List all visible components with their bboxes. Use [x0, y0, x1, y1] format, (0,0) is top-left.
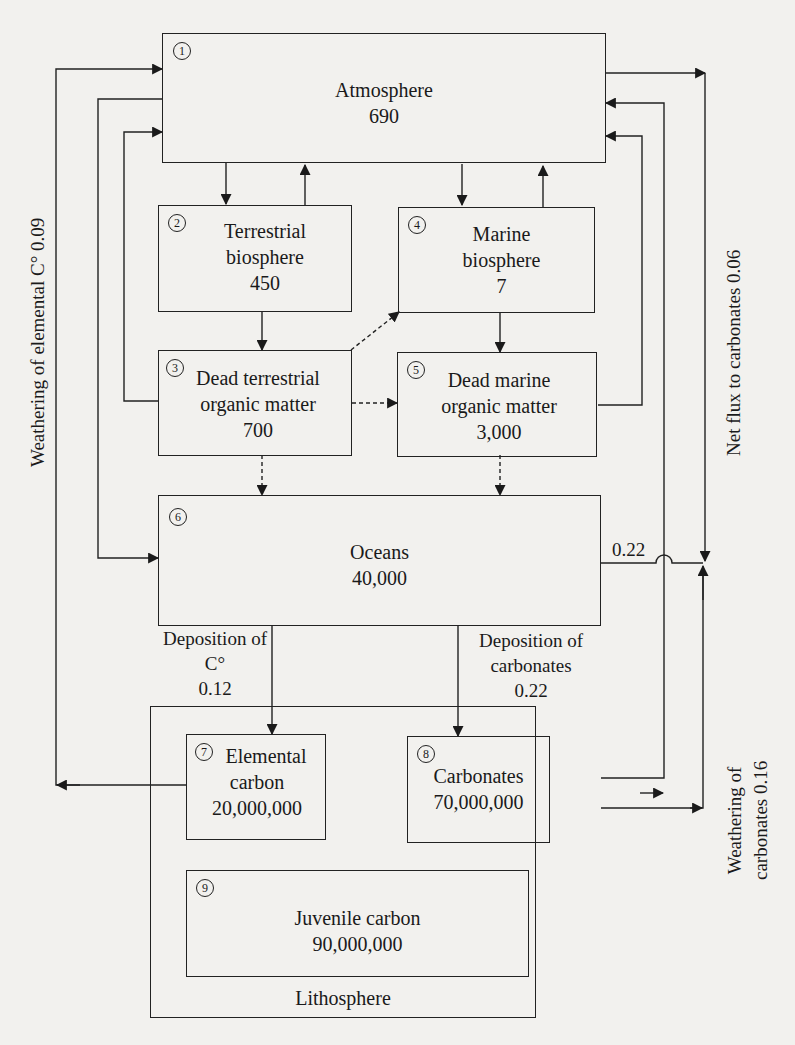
box-name-line2: organic matter [165, 391, 351, 417]
flux-value: 0.12 [160, 676, 270, 701]
box-number-badge: 6 [169, 508, 187, 526]
box-name-line2: biosphere [409, 247, 594, 273]
flux-text: Weathering of [722, 761, 748, 880]
box-dead-terrestrial-organic-matter: 3 Dead terrestrial organic matter 700 [158, 350, 352, 456]
box-label: Dead terrestrial organic matter 700 [165, 365, 351, 443]
box-juvenile-carbon: 9 Juvenile carbon 90,000,000 [186, 870, 529, 977]
flux-label-oceans-out: 0.22 [612, 537, 645, 562]
box-name: Oceans [159, 539, 600, 565]
box-name-line1: Terrestrial [179, 218, 351, 244]
box-atmosphere: 1 Atmosphere 690 [162, 33, 606, 163]
box-value: 40,000 [159, 565, 600, 591]
arrow-dead-terrestrial-to-atmosphere [124, 132, 162, 401]
flux-text: carbonates [462, 653, 600, 678]
flux-label-weathering-elemental: Weathering of elemental C° 0.09 [26, 218, 50, 467]
flux-text: carbonates 0.16 [748, 761, 774, 880]
box-name-line1: Marine [409, 221, 594, 247]
box-number-badge: 1 [173, 42, 191, 60]
box-name-line1: Dead marine [402, 367, 596, 393]
box-label: Terrestrial biosphere 450 [179, 218, 351, 296]
box-value: 70,000,000 [408, 789, 549, 815]
box-name: Carbonates [408, 763, 549, 789]
box-label: Atmosphere 690 [163, 77, 605, 129]
box-label: Oceans 40,000 [159, 539, 600, 591]
box-label: Marine biosphere 7 [409, 221, 594, 299]
box-value: 20,000,000 [189, 795, 325, 821]
arrow-carbonates-to-atmosphere [601, 103, 664, 778]
box-name-line1: Elemental [189, 743, 325, 769]
box-name-line2: organic matter [402, 393, 596, 419]
container-label: Lithosphere [151, 985, 535, 1011]
arrow-carbonates-to-weathering [601, 572, 703, 808]
box-label: Carbonates 70,000,000 [408, 763, 549, 815]
box-value: 450 [179, 270, 351, 296]
box-marine-biosphere: 4 Marine biosphere 7 [398, 207, 595, 313]
box-number-badge: 9 [196, 879, 214, 897]
dashed-arrow-dead-terrestrial-to-marine [351, 312, 399, 350]
box-name-line1: Dead terrestrial [165, 365, 351, 391]
flux-label-deposition-carbonates: Deposition of carbonates 0.22 [462, 628, 600, 703]
box-value: 90,000,000 [187, 931, 528, 957]
flux-label-net-flux-carbonates: Net flux to carbonates 0.06 [722, 250, 746, 456]
flux-label-deposition-c: Deposition of C° 0.12 [160, 626, 270, 701]
flux-text: C° [160, 651, 270, 676]
box-value: 3,000 [402, 419, 596, 445]
box-terrestrial-biosphere: 2 Terrestrial biosphere 450 [158, 205, 352, 312]
box-value: 700 [165, 417, 351, 443]
box-name: Juvenile carbon [187, 905, 528, 931]
box-value: 690 [163, 103, 605, 129]
box-label: Elemental carbon 20,000,000 [189, 743, 325, 821]
flux-label-weathering-carbonates: Weathering of carbonates 0.16 [722, 761, 774, 880]
box-value: 7 [409, 273, 594, 299]
flux-text: Deposition of [462, 628, 600, 653]
box-label: Dead marine organic matter 3,000 [402, 367, 596, 445]
arrow-atmosphere-to-oceans [98, 99, 162, 558]
flux-text: Deposition of [160, 626, 270, 651]
flux-value: 0.22 [462, 678, 600, 703]
box-name-line2: carbon [189, 769, 325, 795]
box-elemental-carbon: 7 Elemental carbon 20,000,000 [186, 734, 326, 840]
arrow-dead-marine-to-atmosphere [598, 136, 642, 405]
box-number-badge: 8 [417, 745, 435, 763]
box-dead-marine-organic-matter: 5 Dead marine organic matter 3,000 [397, 352, 597, 457]
box-oceans: 6 Oceans 40,000 [158, 495, 601, 626]
box-label: Juvenile carbon 90,000,000 [187, 905, 528, 957]
box-name-line2: biosphere [179, 244, 351, 270]
box-carbonates: 8 Carbonates 70,000,000 [407, 736, 550, 843]
box-name: Atmosphere [163, 77, 605, 103]
